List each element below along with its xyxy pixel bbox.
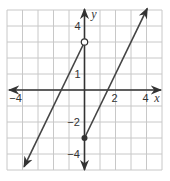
closed-dot-point <box>82 135 88 141</box>
axes <box>9 9 161 170</box>
y-tick-label: −4 <box>67 148 80 160</box>
piecewise-graph: −42441−2−4xy <box>0 0 170 181</box>
y-tick-label: 1 <box>74 68 80 80</box>
x-tick-label: 2 <box>111 92 117 104</box>
y-tick-label: 4 <box>74 20 80 32</box>
x-axis-label: x <box>153 91 160 105</box>
x-tick-label: 4 <box>142 92 148 104</box>
x-tick-label: −4 <box>9 92 22 104</box>
y-tick-label: −2 <box>67 116 80 128</box>
plot-lines <box>24 8 147 166</box>
y-axis-label: y <box>90 7 97 21</box>
open-circle-point <box>81 39 87 45</box>
